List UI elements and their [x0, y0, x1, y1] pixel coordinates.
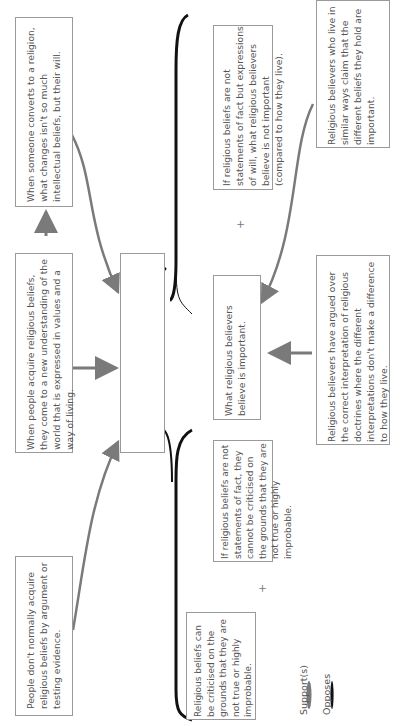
text-not-important: If religious beliefs are not statements …	[220, 26, 285, 186]
box-belief-important[interactable]: What religious believers believe is impo…	[213, 275, 261, 420]
text-cannot-criticise: If religious beliefs are not statements …	[219, 441, 294, 559]
box-can-criticise: Religious beliefs can be criticised on t…	[186, 612, 256, 720]
box-cannot-criticise: If religious beliefs are not statements …	[213, 440, 273, 562]
legend-opposes-label: Opposes	[321, 674, 332, 715]
box-conversion: When someone converts to a religion, wha…	[15, 17, 73, 207]
legend-supports-label: Support(s)	[298, 665, 309, 715]
text-similar-ways: Religious believers who live in similar …	[325, 1, 377, 145]
text-belief-important: What religious believers believe is impo…	[222, 276, 248, 416]
box-central-claim[interactable]	[120, 253, 165, 453]
text-no-argument: People don't normally acquire religious …	[24, 559, 63, 709]
box-not-important: If religious beliefs are not statements …	[213, 25, 273, 190]
text-acquire-values: When people acquire religious beliefs, t…	[24, 258, 76, 450]
combinator-plus-top: +	[234, 220, 247, 229]
support-arrow-noargument-to-central	[73, 442, 118, 630]
box-acquire-values: When people acquire religious beliefs, t…	[15, 253, 73, 453]
box-similar-ways: Religious believers who live in similar …	[316, 0, 390, 148]
box-argued-over: Religious believers have argued over the…	[316, 255, 390, 445]
box-no-argument: People don't normally acquire religious …	[15, 556, 73, 716]
support-arrow-conversion-to-central	[72, 135, 118, 292]
combinator-plus-bottom: +	[256, 584, 269, 593]
text-argued-over: Religious believers have argued over the…	[325, 256, 390, 442]
oppose-bracket-top	[170, 15, 188, 300]
text-can-criticise: Religious beliefs can be criticised on t…	[192, 613, 255, 717]
text-conversion: When someone converts to a religion, wha…	[24, 22, 63, 202]
